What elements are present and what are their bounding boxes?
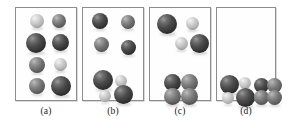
sphere-c4 — [190, 34, 209, 53]
sphere-a6 — [54, 58, 67, 71]
sphere-b4 — [121, 40, 136, 55]
panel-d — [216, 7, 276, 101]
sphere-d1 — [220, 75, 239, 94]
panel-c-contents — [150, 8, 210, 100]
panel-b-contents — [83, 8, 143, 100]
sphere-b2 — [121, 15, 135, 29]
sphere-c7 — [164, 88, 181, 105]
sphere-b5 — [93, 70, 113, 90]
sphere-d3 — [222, 92, 234, 104]
sphere-a1 — [30, 14, 44, 28]
sphere-c2 — [186, 17, 199, 30]
sphere-c3 — [175, 37, 188, 50]
caption-panel-c: (c) — [149, 106, 211, 116]
sphere-b1 — [92, 13, 108, 29]
panel-b — [82, 7, 144, 101]
sphere-a2 — [52, 14, 66, 28]
sphere-a4 — [52, 34, 69, 51]
sphere-a3 — [26, 33, 46, 53]
sphere-a5 — [29, 57, 45, 73]
panel-c — [149, 7, 211, 101]
sphere-d8 — [267, 90, 282, 105]
panel-a — [15, 7, 77, 101]
sphere-d4 — [236, 88, 255, 107]
panel-a-contents — [16, 8, 76, 100]
caption-panel-b: (b) — [82, 106, 144, 116]
panel-d-contents — [217, 8, 275, 100]
caption-panel-a: (a) — [15, 106, 77, 116]
sphere-b7 — [99, 90, 111, 102]
sphere-a7 — [29, 78, 45, 94]
sphere-c8 — [181, 88, 198, 105]
sphere-b8 — [114, 85, 133, 104]
sphere-a8 — [51, 76, 71, 96]
sphere-b3 — [94, 37, 109, 52]
figure-container: (a)(b)(c)(d) — [0, 0, 288, 128]
sphere-c1 — [157, 14, 177, 34]
